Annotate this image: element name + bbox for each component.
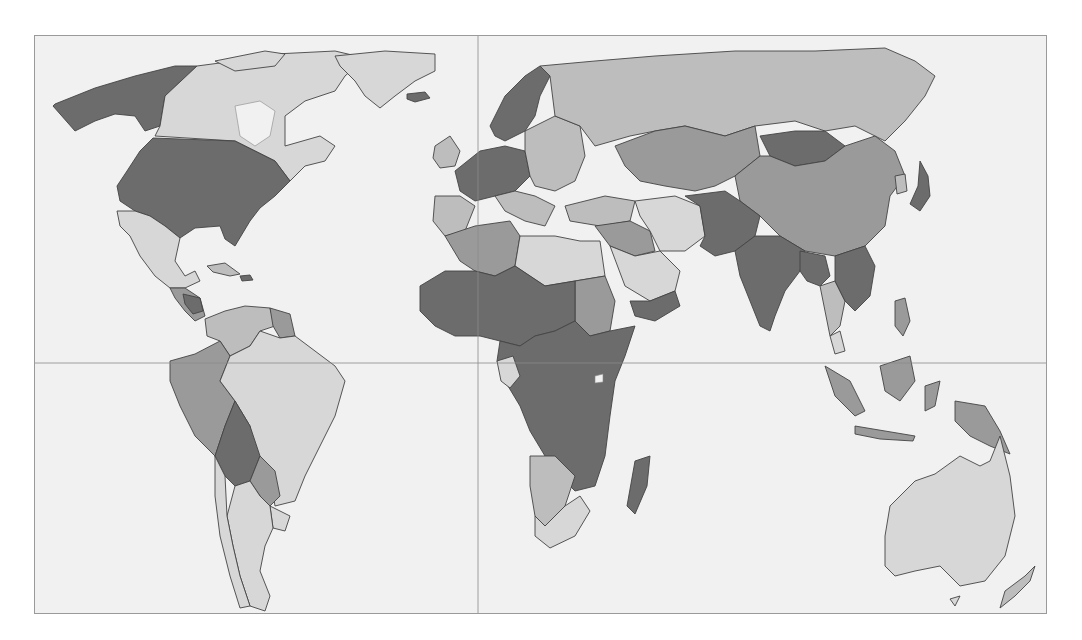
region-iceland — [407, 92, 430, 102]
region-malaysia — [830, 331, 845, 354]
region-madagascar — [627, 456, 650, 514]
region-central-east-africa — [497, 321, 635, 491]
region-india — [735, 236, 805, 331]
region-middle-east — [595, 221, 655, 256]
world-map-frame — [34, 35, 1047, 614]
region-russia — [540, 48, 935, 146]
region-new-zealand — [1000, 566, 1035, 608]
region-indonesia-java — [855, 426, 915, 441]
region-cuba — [207, 263, 240, 276]
region-italy-balkans — [495, 191, 555, 226]
world-map — [35, 36, 1047, 614]
region-philippines — [895, 298, 910, 336]
region-guianas — [270, 308, 295, 338]
region-korea — [895, 174, 907, 194]
region-indonesia-sumatra — [825, 366, 865, 416]
region-uk-ireland — [433, 136, 460, 168]
region-eastern-europe — [525, 116, 585, 191]
region-hispaniola — [240, 275, 253, 281]
region-tasmania — [950, 596, 960, 606]
region-australia — [885, 436, 1015, 586]
region-bangladesh-myanmar — [800, 251, 830, 286]
region-indonesia-sulawesi — [925, 381, 940, 411]
region-japan — [910, 161, 930, 211]
